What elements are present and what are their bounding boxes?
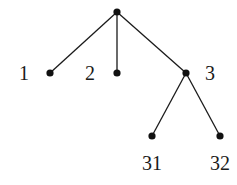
- node-label-2: 2: [85, 62, 95, 84]
- node-root: [113, 8, 120, 15]
- node-2: [113, 69, 120, 76]
- node-label-3: 3: [205, 62, 215, 84]
- labels: 1 2 3 31 32: [19, 62, 230, 174]
- node-label-1: 1: [19, 62, 29, 84]
- node-label-31: 31: [142, 152, 162, 174]
- tree-diagram: 1 2 3 31 32: [0, 0, 237, 185]
- edges: [50, 12, 220, 136]
- node-3: [182, 69, 189, 76]
- node-1: [46, 69, 53, 76]
- edge-root-3: [117, 12, 186, 73]
- node-label-32: 32: [210, 152, 230, 174]
- node-31: [148, 132, 155, 139]
- edge-3-31: [152, 73, 186, 136]
- node-32: [216, 132, 223, 139]
- edge-root-1: [50, 12, 117, 73]
